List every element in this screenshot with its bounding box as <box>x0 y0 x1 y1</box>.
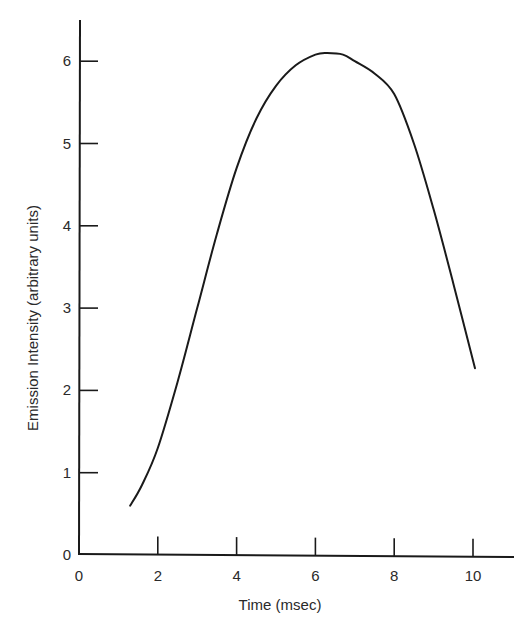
y-tick-label: 5 <box>63 135 71 152</box>
emission-chart: 0123456 0246810 Time (msec) Emission Int… <box>0 0 527 632</box>
y-axis-line <box>79 20 80 555</box>
axes <box>79 20 514 557</box>
y-tick-label: 1 <box>63 464 71 481</box>
x-tick-label: 4 <box>232 567 240 584</box>
y-tick-label: 2 <box>63 381 71 398</box>
y-axis-title: Emission Intensity (arbitrary units) <box>24 205 41 431</box>
x-tick-label: 6 <box>311 567 319 584</box>
x-tick-label: 10 <box>465 567 482 584</box>
x-ticks: 0246810 <box>75 537 482 584</box>
x-tick-label: 0 <box>75 567 83 584</box>
emission-curve <box>130 53 475 506</box>
y-tick-label: 3 <box>63 299 71 316</box>
x-axis-title: Time (msec) <box>239 596 322 613</box>
y-tick-label: 4 <box>63 217 71 234</box>
x-axis-line <box>79 554 514 557</box>
x-tick-label: 2 <box>154 567 162 584</box>
y-tick-label: 0 <box>63 546 71 563</box>
x-tick-label: 8 <box>390 567 398 584</box>
y-tick-label: 6 <box>63 52 71 69</box>
